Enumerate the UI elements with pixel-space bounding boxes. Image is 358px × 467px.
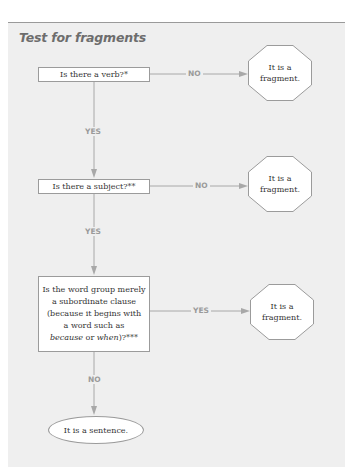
example-word-because: because xyxy=(50,333,83,342)
example-word-when: when xyxy=(97,333,119,342)
conjunction-or: or xyxy=(83,333,97,342)
fragment-text-line2: fragment. xyxy=(260,184,300,195)
flowchart-panel: Test for fragments Is there a ver xyxy=(8,22,345,467)
sentence-ellipse: It is a sentence. xyxy=(48,416,144,444)
fragment-text-line1: It is a xyxy=(269,173,292,184)
fragment-text-line2: fragment. xyxy=(262,312,302,323)
question-subject-text: Is there a subject?** xyxy=(53,182,136,191)
edge-label-no: NO xyxy=(86,375,103,384)
edge-label-no: NO xyxy=(186,69,203,78)
edge-label-no: NO xyxy=(193,181,210,190)
fragment-text-line1: It is a xyxy=(269,62,292,73)
question-line: a subordinate clause xyxy=(52,296,136,308)
question-verb-text: Is there a verb?* xyxy=(60,70,128,79)
question-subordinate-clause-box: Is the word group merely a subordinate c… xyxy=(38,276,150,352)
question-verb-box: Is there a verb?* xyxy=(38,67,150,82)
question-line: (because it begins with xyxy=(47,308,141,320)
question-line: a word such as xyxy=(64,320,125,332)
question-subject-box: Is there a subject?** xyxy=(38,179,150,194)
edge-label-yes: YES xyxy=(83,227,103,236)
fragment-octagon-3: It is a fragment. xyxy=(250,284,314,340)
fragment-octagon-1: It is a fragment. xyxy=(248,45,312,101)
question-line: Is the word group merely xyxy=(42,284,145,296)
fragment-text-line1: It is a xyxy=(271,301,294,312)
edge-label-yes: YES xyxy=(83,127,103,136)
sentence-text: It is a sentence. xyxy=(64,426,128,435)
question-line: because or when)?*** xyxy=(50,332,138,344)
fragment-text-line2: fragment. xyxy=(260,73,300,84)
question-end: )?*** xyxy=(119,333,138,342)
edge-label-yes: YES xyxy=(191,306,211,315)
fragment-octagon-2: It is a fragment. xyxy=(248,156,312,212)
